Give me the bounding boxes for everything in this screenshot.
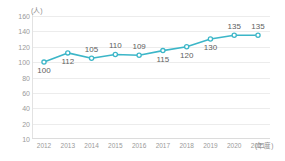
data-point-label: 135 bbox=[251, 23, 264, 31]
x-tick-label: 2018 bbox=[179, 143, 193, 150]
data-point-label: 105 bbox=[85, 46, 98, 54]
x-tick-label: 2015 bbox=[108, 143, 122, 150]
data-point-label: 100 bbox=[37, 67, 50, 75]
data-point-marker bbox=[113, 52, 117, 56]
data-point-label: 120 bbox=[180, 52, 193, 60]
data-point-marker bbox=[232, 33, 236, 37]
data-point-marker bbox=[137, 53, 141, 57]
x-tick-label: 2012 bbox=[37, 143, 51, 150]
x-tick-label: 2016 bbox=[132, 143, 146, 150]
data-point-label: 109 bbox=[132, 43, 145, 51]
data-point-label: 112 bbox=[61, 58, 74, 66]
plot-area bbox=[0, 0, 285, 161]
series-line bbox=[44, 35, 258, 62]
data-point-marker bbox=[42, 60, 46, 64]
x-tick-label: 2013 bbox=[61, 143, 75, 150]
data-point-label: 110 bbox=[109, 42, 122, 50]
data-point-marker bbox=[66, 51, 70, 55]
data-point-label: 130 bbox=[204, 44, 217, 52]
data-point-marker bbox=[161, 48, 165, 52]
data-point-marker bbox=[256, 33, 260, 37]
x-tick-label: 2019 bbox=[203, 143, 217, 150]
x-tick-label: 2017 bbox=[156, 143, 170, 150]
line-chart: 160 140 120 100 80 60 40 20 10 (人) 10011… bbox=[0, 0, 285, 161]
data-point-label: 135 bbox=[228, 23, 241, 31]
series-markers bbox=[42, 33, 260, 64]
data-point-label: 115 bbox=[156, 56, 169, 64]
data-point-marker bbox=[89, 56, 93, 60]
x-tick-label: 2014 bbox=[84, 143, 98, 150]
x-axis-unit-label: (年度) bbox=[255, 143, 273, 150]
data-point-marker bbox=[185, 45, 189, 49]
x-tick-label: 2020 bbox=[227, 143, 241, 150]
data-point-marker bbox=[208, 37, 212, 41]
